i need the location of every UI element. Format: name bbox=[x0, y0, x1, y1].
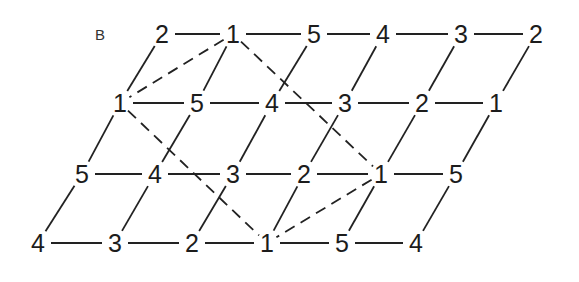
diagonal-edge bbox=[89, 115, 114, 161]
solid-edges bbox=[46, 34, 529, 243]
lattice-node: 2 bbox=[185, 229, 199, 257]
lattice-node: 3 bbox=[226, 160, 240, 188]
lattice-node: 5 bbox=[449, 160, 463, 188]
lattice-node: 3 bbox=[108, 229, 122, 257]
lattice-node: 1 bbox=[374, 160, 388, 188]
lattice-node: 3 bbox=[338, 89, 352, 117]
diagonal-edge bbox=[503, 46, 529, 91]
dashed-edge bbox=[276, 180, 371, 238]
dashed-edge bbox=[241, 42, 373, 167]
lattice-node: 4 bbox=[148, 160, 162, 188]
lattice-node: 1 bbox=[226, 20, 240, 48]
dashed-rhombus-edges bbox=[128, 40, 373, 238]
diagonal-edge bbox=[279, 46, 306, 91]
lattice-node: 4 bbox=[31, 229, 45, 257]
lattice-node: 2 bbox=[297, 160, 311, 188]
lattice-node: 4 bbox=[376, 20, 390, 48]
lattice-node: 1 bbox=[489, 89, 503, 117]
diagonal-edge bbox=[240, 115, 266, 161]
diagonal-edge bbox=[352, 46, 376, 90]
lattice-node: 5 bbox=[190, 89, 204, 117]
lattice-node: 2 bbox=[529, 20, 543, 48]
lattice-node: 4 bbox=[409, 229, 423, 257]
panel-label: B bbox=[95, 26, 105, 43]
diagonal-edge bbox=[463, 115, 489, 162]
lattice-node: 1 bbox=[260, 229, 274, 257]
lattice-node: 5 bbox=[307, 20, 321, 48]
diagonal-edge bbox=[46, 186, 75, 231]
lattice-node: 1 bbox=[113, 89, 127, 117]
diagonal-edge bbox=[162, 115, 190, 162]
diagonal-edge bbox=[203, 46, 226, 90]
lattice-node: 5 bbox=[75, 160, 89, 188]
diagonal-edge bbox=[127, 46, 154, 91]
lattice-node: 4 bbox=[265, 89, 279, 117]
lattice-node: 5 bbox=[335, 229, 349, 257]
diagonal-edge bbox=[388, 115, 415, 162]
lattice-nodes: 215432154321543215432154 bbox=[31, 20, 543, 257]
diagonal-edge bbox=[311, 115, 338, 162]
diagonal-edge bbox=[423, 186, 449, 231]
diagonal-edge bbox=[274, 186, 298, 230]
lattice-canvas: B 215432154321543215432154 bbox=[0, 0, 579, 282]
diagonal-edge bbox=[199, 186, 226, 231]
diagonal-edge bbox=[429, 46, 454, 91]
lattice-node: 2 bbox=[155, 20, 169, 48]
diagonal-edge bbox=[122, 186, 148, 231]
diagonal-edge bbox=[349, 186, 374, 231]
dashed-edge bbox=[129, 40, 223, 98]
lattice-diagram: B 215432154321543215432154 bbox=[0, 0, 579, 282]
lattice-node: 2 bbox=[415, 89, 429, 117]
lattice-node: 3 bbox=[454, 20, 468, 48]
